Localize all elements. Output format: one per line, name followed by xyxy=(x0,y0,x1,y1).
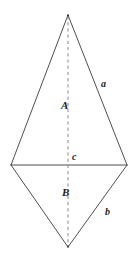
label-base-c: c xyxy=(72,152,76,162)
top-left-edge xyxy=(11,15,68,165)
label-upper-side-a: a xyxy=(101,79,106,89)
rhombus-diagram-canvas xyxy=(0,0,136,260)
bottom-left-edge xyxy=(11,165,68,247)
label-lower-side-b: b xyxy=(105,207,110,217)
top-right-edge xyxy=(68,15,127,165)
label-upper-height-A: A xyxy=(61,100,68,111)
label-lower-height-B: B xyxy=(62,187,69,198)
bottom-vertex-dot xyxy=(67,245,69,247)
bottom-right-edge xyxy=(68,165,127,247)
top-vertex-dot xyxy=(67,14,69,16)
geometry-figure: A a c B b xyxy=(0,0,136,260)
